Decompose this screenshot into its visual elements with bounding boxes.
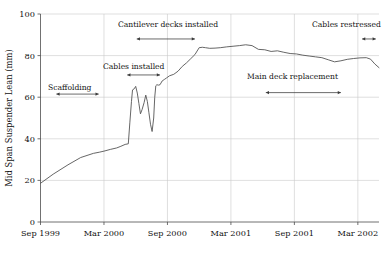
axes — [41, 14, 380, 222]
annotation-group: Main deck replacement — [247, 72, 341, 94]
annotation-label: Cantilever decks installed — [118, 20, 218, 29]
annotation-arrow-head — [157, 73, 160, 76]
tick-marks — [38, 14, 358, 225]
annotation-group: Scaffolding — [48, 83, 99, 96]
x-tick-label: Mar 2002 — [338, 228, 379, 238]
y-tick-label: 40 — [25, 134, 35, 144]
annotation-label: Cables restressed — [312, 20, 381, 29]
x-tick-label: Mar 2001 — [211, 228, 252, 238]
annotation-arrow-head — [95, 92, 98, 95]
annotation-arrow-head — [338, 91, 341, 94]
line-chart: ScaffoldingCables installedCantilever de… — [0, 0, 387, 261]
series-line-mid-span-lean — [41, 45, 380, 184]
x-tick-label: Sep 2001 — [275, 228, 314, 238]
annotation-arrow-head — [192, 37, 195, 40]
x-tick-label: Sep 2000 — [148, 228, 187, 238]
annotation-label: Cables installed — [103, 62, 165, 71]
annotation-group: Cantilever decks installed — [118, 20, 218, 41]
annotation-arrow-head — [137, 37, 140, 40]
y-tick-label: 80 — [25, 51, 35, 61]
x-tick-label: Mar 2000 — [84, 228, 125, 238]
data-series — [41, 45, 380, 184]
grid-lines — [41, 14, 380, 222]
y-axis-title: Mid Span Suspender Lean (mm) — [4, 49, 14, 187]
y-tick-label: 100 — [19, 9, 35, 19]
chart-container: ScaffoldingCables installedCantilever de… — [0, 0, 387, 261]
annotations: ScaffoldingCables installedCantilever de… — [48, 20, 381, 96]
annotation-arrow-head — [56, 92, 59, 95]
y-tick-label: 60 — [25, 92, 35, 102]
annotation-arrow-head — [127, 73, 130, 76]
x-tick-label: Sep 1999 — [21, 228, 60, 238]
annotation-label: Scaffolding — [48, 83, 92, 92]
annotation-arrow-head — [373, 37, 376, 40]
annotation-group: Cables restressed — [312, 20, 381, 41]
annotation-label: Main deck replacement — [247, 72, 338, 81]
annotation-arrow-head — [362, 37, 365, 40]
y-tick-label: 20 — [25, 175, 35, 185]
y-tick-label: 0 — [30, 217, 35, 227]
annotation-arrow-head — [266, 91, 269, 94]
annotation-group: Cables installed — [103, 62, 165, 77]
axis-tick-labels: 020406080100Sep 1999Mar 2000Sep 2000Mar … — [19, 9, 378, 238]
